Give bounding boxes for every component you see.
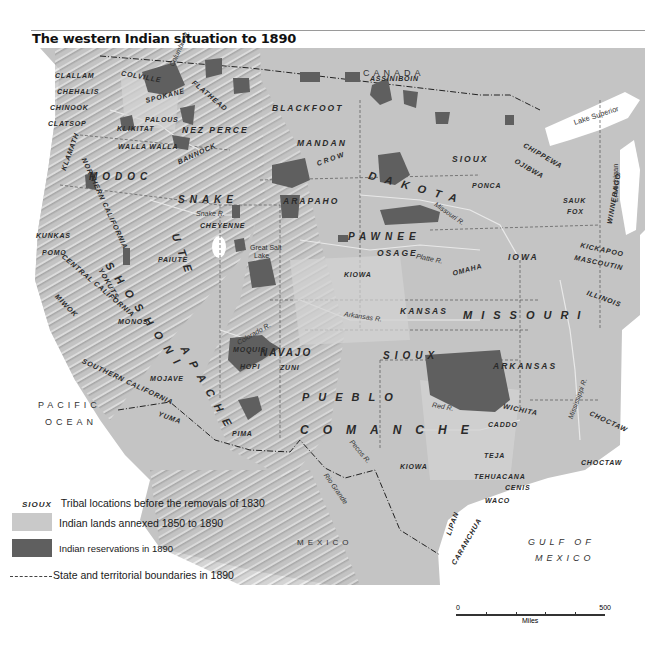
tribe-choctaw-2: CHOCTAW <box>581 459 622 466</box>
tribe-mandan: MANDAN <box>297 139 347 148</box>
legend-sample-tribe: SIOUX <box>22 500 52 509</box>
legend-boundary-line <box>10 576 52 577</box>
tribe-waco: WACO <box>485 497 510 504</box>
tribe-clatsop: CLATSOP <box>48 120 87 127</box>
tribe-comanche: COMANCHE <box>300 424 483 436</box>
tribe-klikitat: KLIKITAT <box>117 125 154 132</box>
tribe-palous: PALOUS <box>145 116 178 123</box>
tribe-blackfoot: BLACKFOOT <box>272 104 343 113</box>
tribe-teja: TEJA <box>484 452 505 459</box>
great-salt-lake <box>212 236 226 258</box>
tribe-chehalis: CHEHALIS <box>57 88 99 95</box>
tribe-cheyenne: CHEYENNE <box>200 222 245 229</box>
tribe-arapaho: ARAPAHO <box>283 197 339 206</box>
tribe-clallam: CLALLAM <box>55 72 94 79</box>
tribe-modoc: MODOC <box>89 172 152 182</box>
tribe-pueblo: PUEBLO <box>302 392 402 403</box>
label-mexico: MEXICO <box>297 539 353 547</box>
tribe-sioux-south: SIOUX <box>383 351 439 361</box>
label-gulf-of: GULF OF <box>528 538 595 547</box>
tribe-fox: FOX <box>567 208 584 215</box>
tribe-ponca: PONCA <box>472 182 501 189</box>
scale-end: 500 <box>599 604 611 611</box>
scale-start: 0 <box>456 604 460 611</box>
tribe-cenis: CENIS <box>505 484 530 491</box>
label-great-salt-lake-1: Great Salt <box>250 244 282 251</box>
label-great-salt-lake-2: Lake <box>254 252 269 259</box>
tribe-tehuacana: TEHUACANA <box>474 473 526 480</box>
tribe-kiowa-south: KIOWA <box>400 463 428 470</box>
tribe-iowa: IOWA <box>508 253 539 262</box>
tribe-caddo: CADDO <box>488 421 518 428</box>
legend-boundaries-text: State and territorial boundaries in 1890 <box>53 569 234 581</box>
label-snake-river: Snake R. <box>196 210 225 217</box>
tribe-navajo: NAVAJO <box>260 348 312 358</box>
tribe-kunkas: KUNKAS <box>36 232 71 239</box>
tribe-hopi: HOPI <box>240 363 260 370</box>
tribe-arkansas: ARKANSAS <box>493 362 557 371</box>
legend-reservations-text: Indian reservations in 1890 <box>59 543 173 554</box>
tribe-zuni: ZUNI <box>280 364 300 371</box>
label-ocean: OCEAN <box>45 418 97 427</box>
tribe-kansas: KANSAS <box>400 307 448 316</box>
tribe-snake: SNAKE <box>178 195 238 205</box>
tribe-missouri: MISSOURI <box>463 310 589 321</box>
tribe-nez-perce: NEZ PERCE <box>182 126 249 135</box>
scale-line <box>456 614 605 616</box>
tribe-mojave: MOJAVE <box>150 375 184 382</box>
tribe-sioux-north: SIOUX <box>452 155 488 164</box>
tribe-sauk: SAUK <box>563 197 586 204</box>
tribe-chinook: CHINOOK <box>50 104 89 111</box>
tribe-walla-walla: WALLA WALLA <box>118 143 178 150</box>
tribe-pawnee: PAWNEE <box>348 232 421 242</box>
label-gulf-mexico: MEXICO <box>535 554 595 563</box>
legend-tribal-text: Tribal locations before the removals of … <box>61 497 265 509</box>
legend-annexed-swatch <box>12 513 52 531</box>
tribe-kiowa-north: KIOWA <box>344 271 372 278</box>
legend-reservations-swatch <box>12 539 52 557</box>
tribe-osage: OSAGE <box>377 249 418 258</box>
legend-tribal-locations: SIOUX Tribal locations before the remova… <box>22 497 265 509</box>
scale-unit: Miles <box>522 617 538 624</box>
tribe-assiniboin: ASSINIBOIN <box>370 75 419 82</box>
legend-annexed-text: Indian lands annexed 1850 to 1890 <box>59 517 223 529</box>
label-pacific: PACIFIC <box>38 401 101 410</box>
